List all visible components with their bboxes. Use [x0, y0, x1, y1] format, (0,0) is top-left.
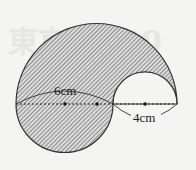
center-point-left — [63, 102, 67, 106]
geometry-figure: 東京 2020 6cm 4cm — [0, 0, 196, 170]
center-point-right — [143, 102, 147, 106]
label-4cm: 4cm — [133, 110, 155, 125]
center-point-middle — [95, 102, 99, 106]
label-6cm: 6cm — [54, 83, 76, 98]
